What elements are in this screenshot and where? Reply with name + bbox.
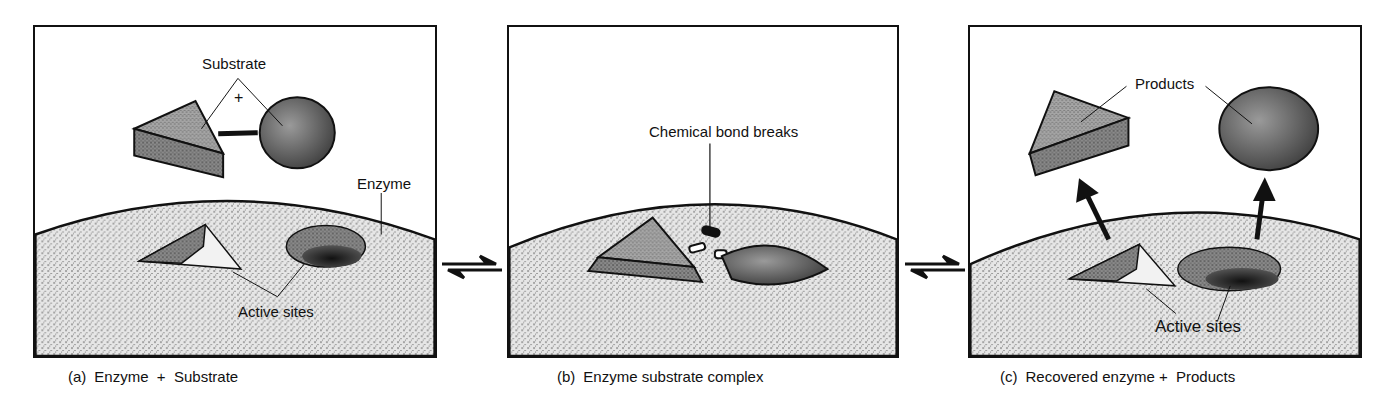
equilibrium-arrow-a-b — [440, 254, 504, 280]
caption-tag: (b) — [557, 368, 575, 385]
caption-tag: (c) — [1000, 368, 1018, 385]
plus-sign: + — [234, 89, 243, 107]
panel-a-enzyme-plus-substrate: Substrate + Enzyme Active sites — [33, 25, 437, 358]
caption-b: (b)Enzyme substrate complex — [557, 368, 763, 385]
caption-a: (a)Enzyme + Substrate — [68, 368, 238, 385]
caption-text: Enzyme substrate complex — [583, 368, 763, 385]
substrate-bond — [218, 133, 258, 134]
enzyme-label: Enzyme — [357, 175, 411, 192]
active-sites-label: Active sites — [1155, 317, 1241, 337]
equilibrium-arrow-b-c — [903, 254, 967, 280]
enzyme-body — [35, 201, 434, 356]
caption-text: Recovered enzyme + Products — [1026, 368, 1236, 385]
substrate-ball — [260, 97, 335, 168]
caption-c: (c)Recovered enzyme + Products — [1000, 368, 1235, 385]
product-ball — [1219, 87, 1318, 170]
active-sites-label: Active sites — [238, 303, 314, 320]
panel-b-enzyme-substrate-complex: Chemical bond breaks — [507, 25, 899, 358]
panel-c-recovered-enzyme-plus-products: Products Active sites — [968, 25, 1362, 358]
caption-text: Enzyme + Substrate — [94, 368, 238, 385]
chemical-bond-breaks-label: Chemical bond breaks — [649, 123, 798, 140]
caption-tag: (a) — [68, 368, 86, 385]
products-label: Products — [1135, 75, 1194, 92]
substrate-label: Substrate — [202, 55, 266, 72]
panel-b-illustration — [509, 27, 897, 356]
